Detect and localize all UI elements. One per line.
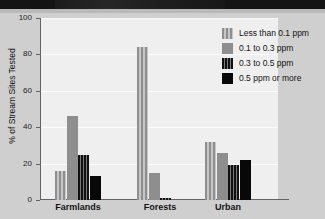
legend-swatch [222, 73, 233, 84]
y-axis-title: % of Stream Sites Tested [7, 21, 17, 171]
legend-item: Less than 0.1 ppm [222, 26, 309, 41]
bar [149, 173, 160, 200]
y-axis-tick-label: 100 [19, 14, 32, 22]
y-axis-tick-label: 0 [28, 196, 32, 204]
x-axis-label: Urban [195, 202, 261, 212]
y-axis-tick-label: 80 [23, 50, 32, 58]
legend-label: 0.5 ppm or more [239, 73, 301, 84]
y-axis-line [40, 18, 41, 200]
legend-label: Less than 0.1 ppm [239, 28, 309, 39]
x-axis-label: Forests [127, 202, 193, 212]
y-axis-tick [36, 91, 40, 92]
legend: Less than 0.1 ppm0.1 to 0.3 ppm0.3 to 0.… [222, 26, 309, 86]
y-axis-tick [36, 200, 40, 201]
legend-swatch [222, 58, 233, 69]
cropped-title-text [55, 0, 225, 9]
y-axis-tick [36, 127, 40, 128]
bar [90, 176, 101, 200]
bar [228, 165, 239, 200]
x-axis-label: Farmlands [45, 202, 111, 212]
bar-group [55, 18, 101, 200]
y-axis-tick [36, 18, 40, 19]
bar [67, 116, 78, 200]
bar [78, 155, 89, 201]
bar [240, 160, 251, 200]
y-axis-tick-label: 40 [23, 123, 32, 131]
bar [160, 198, 171, 200]
bar [55, 171, 66, 200]
legend-label: 0.3 to 0.5 ppm [239, 58, 293, 69]
bar-group [137, 18, 183, 200]
bar [217, 153, 228, 200]
chart-figure: 020406080100 % of Stream Sites Tested Fa… [0, 13, 325, 219]
legend-label: 0.1 to 0.3 ppm [239, 43, 293, 54]
bar [205, 142, 216, 200]
bar [137, 47, 148, 200]
y-axis-tick-label: 20 [23, 160, 32, 168]
legend-item: 0.1 to 0.3 ppm [222, 41, 309, 56]
y-axis-tick [36, 164, 40, 165]
legend-swatch [222, 43, 233, 54]
legend-swatch [222, 28, 233, 39]
legend-item: 0.3 to 0.5 ppm [222, 56, 309, 71]
top-dark-band [0, 0, 325, 9]
y-axis-tick-label: 60 [23, 87, 32, 95]
y-axis-tick [36, 54, 40, 55]
legend-item: 0.5 ppm or more [222, 71, 309, 86]
